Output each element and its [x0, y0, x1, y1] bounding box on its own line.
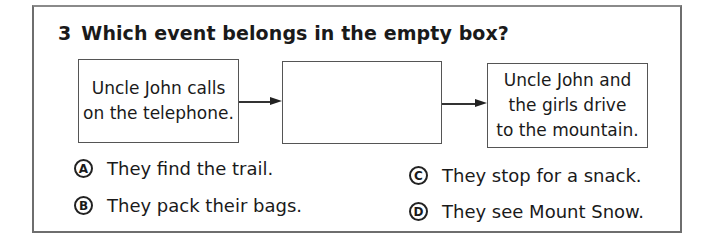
answer-bubble-d[interactable]: D [409, 202, 428, 221]
event-box-empty [282, 61, 442, 144]
event-box-line: Uncle John and [496, 68, 638, 93]
event-box-first: Uncle John calls on the telephone. [78, 59, 239, 143]
answer-text-a: They find the trail. [107, 158, 273, 179]
arrow-right-icon [239, 101, 282, 103]
answer-bubble-c[interactable]: C [409, 166, 428, 185]
answer-text-b: They pack their bags. [107, 195, 302, 216]
answer-option-d[interactable]: D They see Mount Snow. [409, 201, 644, 222]
event-box-last: Uncle John and the girls drive to the mo… [487, 63, 648, 148]
answer-text-d: They see Mount Snow. [442, 201, 644, 222]
event-box-line: to the mountain. [496, 118, 638, 143]
answer-option-c[interactable]: C They stop for a snack. [409, 165, 642, 186]
answer-bubble-b[interactable]: B [74, 196, 93, 215]
arrow-right-icon [442, 103, 487, 105]
question-text: Which event belongs in the empty box? [81, 22, 509, 44]
answer-option-b[interactable]: B They pack their bags. [74, 195, 302, 216]
question-number: 3 [58, 22, 71, 44]
event-box-line: the girls drive [496, 93, 638, 118]
answer-option-a[interactable]: A They find the trail. [74, 158, 273, 179]
answer-text-c: They stop for a snack. [442, 165, 642, 186]
question-title: 3Which event belongs in the empty box? [58, 22, 509, 44]
event-box-line: Uncle John calls [83, 76, 234, 101]
answer-bubble-a[interactable]: A [74, 159, 93, 178]
event-box-line: on the telephone. [83, 101, 234, 126]
